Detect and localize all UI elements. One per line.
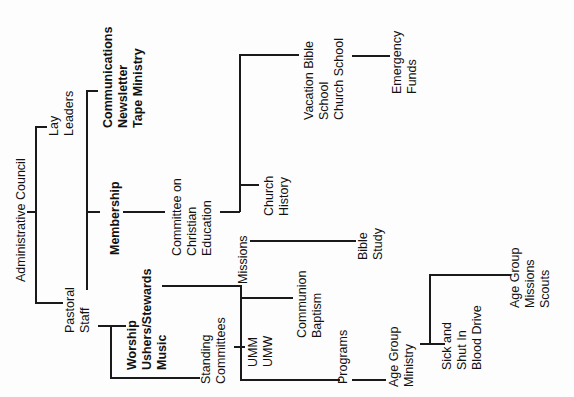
connector-programs bbox=[240, 379, 340, 381]
node-sick-shut-in: Sick and Shut In Blood Drive bbox=[440, 305, 485, 370]
connector-staff-standing bbox=[110, 377, 200, 379]
connector-ce-vbs bbox=[239, 54, 299, 56]
connector-ce-history bbox=[239, 184, 259, 186]
node-lay-leaders: Lay Leaders bbox=[47, 91, 77, 136]
node-bible-study: Bible Study bbox=[356, 228, 386, 260]
connector-agm-missions bbox=[429, 274, 511, 276]
connector-missions-bible bbox=[250, 240, 356, 242]
connector-admin-spine bbox=[35, 126, 37, 304]
node-vacation-bible-school: Vacation Bible School Church School bbox=[302, 38, 347, 120]
node-standing-committees: Standing Committees bbox=[199, 317, 229, 384]
connector-school-emergency bbox=[352, 55, 390, 57]
connector-programs-age bbox=[352, 379, 386, 381]
node-committee-christian-education: Committee on Christian Education bbox=[170, 178, 215, 256]
node-worship: Worship Ushers/Stewards Music bbox=[125, 269, 170, 370]
connector-staff-spine bbox=[110, 325, 112, 379]
connector-lay-spine bbox=[86, 90, 88, 290]
connector-lay-communications bbox=[86, 90, 98, 92]
connector-membership-committee bbox=[123, 211, 165, 213]
connector-worship-spine bbox=[240, 285, 242, 381]
connector-ce-spine bbox=[239, 54, 241, 212]
connector-staff-worship bbox=[98, 325, 126, 327]
org-chart: Administrative Council Lay Leaders Commu… bbox=[0, 0, 574, 397]
node-age-group-missions: Age Group Missions Scouts bbox=[508, 248, 553, 308]
node-emergency-funds: Emergency Funds bbox=[390, 31, 420, 94]
node-church-history: Church History bbox=[262, 176, 292, 216]
connector-umm bbox=[234, 346, 245, 348]
node-administrative-council: Administrative Council bbox=[14, 158, 29, 282]
node-programs: Programs bbox=[336, 330, 351, 384]
node-membership: Membership bbox=[108, 181, 123, 255]
node-umm-umw: UMM UMW bbox=[246, 336, 276, 367]
connector-admin-lay bbox=[35, 126, 47, 128]
connector-agm-spine bbox=[429, 274, 431, 344]
connector-lay-membership bbox=[86, 211, 100, 213]
connector-committee-spine bbox=[220, 211, 240, 213]
node-communications: Communications Newsletter Tape Ministry bbox=[101, 27, 146, 128]
node-age-group-ministry: Age Group Ministry bbox=[387, 327, 417, 387]
connector-admin-pastoral bbox=[35, 302, 63, 304]
node-communion-baptism: Communion Baptism bbox=[295, 271, 325, 338]
node-pastoral-staff: Pastoral Staff bbox=[63, 287, 93, 333]
connector-communion bbox=[240, 297, 293, 299]
node-missions: Missions bbox=[236, 235, 251, 284]
connector-ushers bbox=[162, 285, 241, 287]
